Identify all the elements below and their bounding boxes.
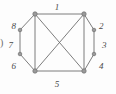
edge-label-1: 1	[53, 3, 61, 12]
stray-paren-glyph: )	[0, 38, 3, 48]
edge-right-lower-arc	[84, 54, 94, 71]
side-node-right-upper	[92, 28, 96, 32]
edge-label-3: 3	[102, 41, 107, 50]
edge-right-upper-arc	[84, 14, 94, 30]
edge-layer	[20, 14, 94, 71]
edge-label-7: 7	[7, 41, 13, 50]
corner-node-top-right	[82, 12, 86, 16]
edge-label-6: 6	[10, 62, 16, 71]
corner-node-bottom-left	[33, 69, 37, 73]
corner-node-top-left	[33, 12, 37, 16]
edge-label-8: 8	[10, 22, 16, 31]
edge-label-5: 5	[53, 80, 61, 89]
side-node-left-lower	[18, 52, 22, 56]
corner-node-bottom-right	[82, 69, 86, 73]
edge-left-upper-arc	[20, 14, 35, 30]
side-node-right-lower	[92, 52, 96, 56]
side-node-left-upper	[18, 28, 22, 32]
edge-label-4: 4	[99, 62, 104, 71]
figure-canvas: 12345678 )	[0, 0, 116, 94]
edge-left-lower-arc	[20, 54, 35, 71]
edge-label-2: 2	[99, 22, 104, 31]
